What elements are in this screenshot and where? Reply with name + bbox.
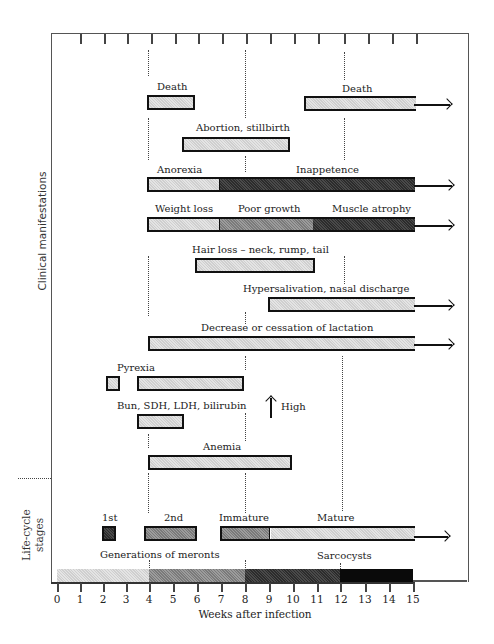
- ref-line-week-4: [148, 434, 149, 448]
- top-tick: [368, 34, 370, 44]
- x-axis-title: Weeks after infection: [175, 608, 335, 620]
- x-tick-label: 3: [116, 593, 136, 605]
- ref-line-week-8: [245, 413, 246, 441]
- label-bun-sdh-ldh: Bun, SDH, LDH, bilirubin: [117, 400, 247, 411]
- bar-lactation: [148, 336, 415, 351]
- segment-inappetence: [219, 179, 415, 190]
- label-high: High: [281, 401, 306, 412]
- top-tick: [344, 34, 346, 44]
- label-immature: Immature: [219, 512, 269, 523]
- bar-abortion: [182, 137, 290, 152]
- x-tick-label: 2: [93, 593, 113, 605]
- top-tick: [222, 34, 224, 44]
- ref-line-week-4: [148, 473, 149, 513]
- ref-line-week-12: [344, 256, 345, 284]
- group-divider: [18, 478, 51, 479]
- bar-pyrexia: [137, 376, 244, 391]
- label-lactation: Decrease or cessation of lactation: [201, 322, 373, 333]
- top-tick: [198, 34, 200, 44]
- top-tick: [80, 34, 82, 44]
- x-tick: [80, 583, 82, 592]
- segment-muscle-atrophy: [313, 219, 415, 230]
- top-tick: [151, 34, 153, 44]
- high-arrow-icon: [270, 398, 272, 418]
- ref-line-week-4: [148, 118, 149, 160]
- bar-bun-sdh-ldh: [137, 414, 184, 429]
- segment-anorexia: [149, 179, 219, 190]
- bar-pyrexia-spike: [106, 376, 120, 391]
- top-tick: [127, 34, 129, 44]
- top-tick: [175, 34, 177, 44]
- bar-death-late: [304, 96, 416, 111]
- ref-line-week-4: [148, 256, 149, 316]
- band-weeks-0-4: [57, 569, 149, 582]
- label-weight-loss: Weight loss: [155, 203, 213, 214]
- x-tick-label: 14: [379, 593, 399, 605]
- x-tick-label: 12: [331, 593, 351, 605]
- x-tick-label: 15: [403, 593, 423, 605]
- label-anemia: Anemia: [203, 441, 241, 452]
- x-tick-label: 1: [70, 593, 90, 605]
- ref-line-week-8: [245, 473, 246, 513]
- x-tick: [126, 583, 128, 592]
- lifecycle-label-line2: stages: [33, 500, 46, 570]
- bar-death-early: [147, 95, 195, 110]
- bar-sarcocysts: [220, 526, 415, 541]
- continues-arrow: [414, 305, 452, 307]
- x-tick: [103, 583, 105, 592]
- label-anorexia: Anorexia: [157, 164, 202, 175]
- top-tick: [294, 34, 296, 44]
- label-mature: Mature: [317, 512, 354, 523]
- x-tick: [173, 583, 175, 592]
- label-death-early: Death: [157, 81, 187, 92]
- label-second: 2nd: [164, 512, 183, 523]
- label-hypersalivation: Hypersalivation, nasal discharge: [243, 283, 409, 294]
- label-meronts: Generations of meronts: [100, 549, 220, 560]
- x-tick-label: 6: [187, 593, 207, 605]
- segment-mature: [271, 528, 415, 539]
- label-inappetence: Inappetence: [296, 164, 359, 175]
- x-tick: [269, 583, 271, 592]
- y-group-label-clinical: Clinical manifestations: [36, 151, 48, 311]
- x-tick-label: 11: [307, 593, 327, 605]
- x-axis-line: [51, 582, 415, 584]
- frame-bottom-edge: [413, 580, 467, 582]
- ref-line-week-8: [245, 50, 246, 118]
- lifecycle-label-line1: Life-cycle: [20, 500, 33, 570]
- top-tick: [246, 34, 248, 44]
- x-tick: [389, 583, 391, 592]
- label-pyrexia: Pyrexia: [117, 362, 155, 373]
- x-tick: [317, 583, 319, 592]
- top-tick: [104, 34, 106, 44]
- x-tick-label: 4: [139, 593, 159, 605]
- ref-line-week-8: [245, 356, 246, 370]
- bar-anemia: [148, 455, 292, 470]
- label-first: 1st: [102, 512, 118, 523]
- x-tick-label: 13: [355, 593, 375, 605]
- bar-meront-1st: [102, 526, 116, 541]
- label-death-late: Death: [342, 83, 372, 94]
- x-tick: [197, 583, 199, 592]
- x-tick: [365, 583, 367, 592]
- label-poor-growth: Poor growth: [238, 203, 301, 214]
- x-tick-label: 9: [259, 593, 279, 605]
- x-tick: [221, 583, 223, 592]
- top-tick: [416, 34, 418, 44]
- x-tick: [57, 583, 59, 592]
- x-tick-label: 8: [235, 593, 255, 605]
- continues-arrow: [414, 225, 452, 227]
- x-tick-label: 10: [283, 593, 303, 605]
- ref-line-week-8: [245, 156, 246, 172]
- x-tick: [293, 583, 295, 592]
- label-hair-loss: Hair loss – neck, rump, tail: [192, 244, 329, 255]
- ref-line-week-12: [344, 118, 345, 160]
- label-sarcocysts: Sarcocysts: [317, 550, 372, 561]
- band-weeks-8-12: [245, 569, 340, 582]
- band-weeks-12-15: [340, 569, 413, 582]
- x-tick: [245, 583, 247, 592]
- band-weeks-4-8: [149, 569, 245, 582]
- continues-arrow: [414, 536, 448, 538]
- continues-arrow: [414, 185, 452, 187]
- x-tick-label: 7: [211, 593, 231, 605]
- label-muscle-atrophy: Muscle atrophy: [332, 203, 411, 214]
